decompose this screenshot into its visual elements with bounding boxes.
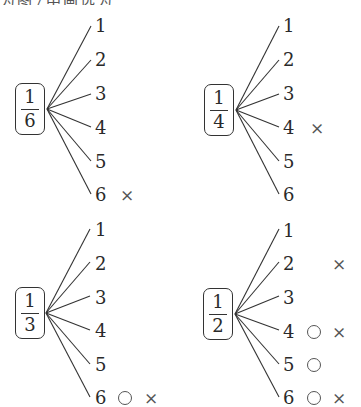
branch-label: 5 <box>95 152 106 172</box>
cross-mark-icon: × <box>332 254 346 274</box>
branch-label: 5 <box>283 152 294 172</box>
branch-label: 3 <box>95 84 106 104</box>
branch-label: 4 <box>95 321 106 341</box>
fraction-numerator: 1 <box>16 87 44 107</box>
cross-mark-icon: × <box>310 118 324 138</box>
branch-label: 1 <box>283 221 294 241</box>
fraction-box: 1 4 <box>204 84 234 136</box>
cross-mark-icon: × <box>332 388 346 407</box>
cross-mark-icon: × <box>332 322 346 342</box>
fraction-denominator: 2 <box>204 316 232 336</box>
branch-label: 3 <box>283 84 294 104</box>
fraction-box: 1 6 <box>15 83 45 135</box>
tree-one-third: 1 3 1 2 3 4 5 6 × <box>0 200 180 407</box>
branch-label: 6 <box>95 388 106 407</box>
fraction-denominator: 6 <box>16 111 44 131</box>
tree-one-half: 1 2 1 2 3 4 5 6 × × × <box>180 200 360 407</box>
branch-label: 1 <box>95 220 106 240</box>
branch-label: 1 <box>95 16 106 36</box>
fraction-numerator: 1 <box>16 291 44 311</box>
fraction-box: 1 2 <box>203 288 233 340</box>
branch-label: 4 <box>283 322 294 342</box>
branch-label: 5 <box>95 355 106 375</box>
tree-one-sixth: 1 6 1 2 3 4 5 6 × <box>0 0 180 200</box>
fraction-numerator: 1 <box>205 88 233 108</box>
branch-label: 5 <box>283 355 294 375</box>
branch-label: 2 <box>283 50 294 70</box>
branch-label: 2 <box>95 254 106 274</box>
branch-label: 4 <box>283 118 294 138</box>
fraction-numerator: 1 <box>204 292 232 312</box>
branch-label: 6 <box>283 388 294 407</box>
fraction-box: 1 3 <box>15 287 45 339</box>
circle-mark-icon <box>307 358 321 372</box>
branch-label: 1 <box>283 16 294 36</box>
fraction-denominator: 3 <box>16 315 44 335</box>
circle-mark-icon <box>307 391 321 405</box>
fraction-denominator: 4 <box>205 112 233 132</box>
branch-label: 3 <box>283 288 294 308</box>
tree-one-fourth: 1 4 1 2 3 4 5 6 × <box>180 0 360 200</box>
branch-label: 4 <box>95 118 106 138</box>
circle-mark-icon <box>118 391 132 405</box>
branch-label: 2 <box>283 254 294 274</box>
cross-mark-icon: × <box>144 388 158 407</box>
branch-label: 2 <box>95 50 106 70</box>
branch-label: 3 <box>95 288 106 308</box>
circle-mark-icon <box>307 325 321 339</box>
